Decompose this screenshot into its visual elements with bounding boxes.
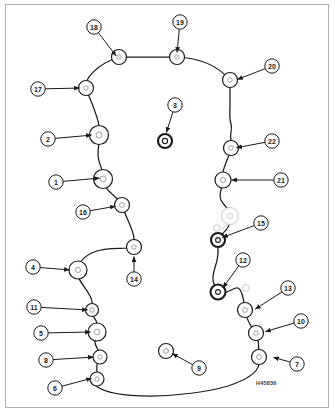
callout-4[interactable]: 4 <box>26 260 40 274</box>
callout-label-14: 14 <box>130 276 138 283</box>
callout-11[interactable]: 11 <box>27 300 41 314</box>
hole-4[interactable] <box>69 261 87 279</box>
callout-label-8: 8 <box>44 357 48 364</box>
leader-line-22 <box>236 142 264 147</box>
callout-6[interactable]: 6 <box>48 381 62 395</box>
callout-label-10: 10 <box>297 318 305 325</box>
leader-line-17 <box>45 88 79 89</box>
callout-label-19: 19 <box>176 19 184 26</box>
callout-label-2: 2 <box>46 136 50 143</box>
leader-line-16 <box>90 206 115 210</box>
callout-14[interactable]: 14 <box>127 272 141 286</box>
callout-label-12: 12 <box>239 257 247 264</box>
callout-label-16: 16 <box>79 209 87 216</box>
callout-17[interactable]: 17 <box>31 82 45 96</box>
callout-20[interactable]: 20 <box>265 59 279 73</box>
diagram-canvas: 12345678910111213141516171819202122 H458… <box>0 0 335 418</box>
callout-label-5: 5 <box>39 330 43 337</box>
callout-label-7: 7 <box>295 361 299 368</box>
diagram-sheet: 12345678910111213141516171819202122 H458… <box>0 0 335 418</box>
hole-18[interactable] <box>112 50 127 65</box>
callout-label-17: 17 <box>34 86 42 93</box>
callout-label-13: 13 <box>284 285 292 292</box>
callout-label-3: 3 <box>173 102 177 109</box>
callout-12[interactable]: 12 <box>236 253 250 267</box>
callout-9[interactable]: 9 <box>192 361 206 375</box>
hole-15[interactable] <box>211 233 225 247</box>
callout-10[interactable]: 10 <box>294 314 308 328</box>
hole-22[interactable] <box>224 141 239 156</box>
hole-16[interactable] <box>115 198 130 213</box>
callout-1[interactable]: 1 <box>49 175 63 189</box>
callout-label-22: 22 <box>268 138 276 145</box>
leader-line-6 <box>62 378 92 386</box>
callout-label-15: 15 <box>257 220 265 227</box>
callout-16[interactable]: 16 <box>76 205 90 219</box>
callout-2[interactable]: 2 <box>41 132 55 146</box>
hole-1[interactable] <box>94 170 113 189</box>
leader-line-7 <box>273 357 290 362</box>
callout-label-6: 6 <box>53 385 57 392</box>
hole-2[interactable] <box>90 126 109 145</box>
callout-label-21: 21 <box>277 177 285 184</box>
hole-3[interactable] <box>158 134 172 148</box>
leader-line-18 <box>98 33 116 56</box>
callout-22[interactable]: 22 <box>265 134 279 148</box>
callout-5[interactable]: 5 <box>34 326 48 340</box>
part-number-label: H45836 <box>256 380 276 386</box>
hole-21[interactable] <box>215 172 231 188</box>
leader-line-10 <box>265 323 294 332</box>
leader-line-13 <box>255 292 282 309</box>
callout-label-9: 9 <box>197 365 201 372</box>
callout-8[interactable]: 8 <box>39 353 53 367</box>
hole-13[interactable] <box>238 303 253 318</box>
callout-label-18: 18 <box>90 24 98 31</box>
callout-15[interactable]: 15 <box>254 216 268 230</box>
callout-7[interactable]: 7 <box>290 357 304 371</box>
hole-20[interactable] <box>223 73 238 88</box>
leader-line-11 <box>41 307 87 310</box>
callout-label-11: 11 <box>30 304 38 311</box>
callout-label-20: 20 <box>268 63 276 70</box>
leader-line-5 <box>48 332 90 333</box>
hole-6[interactable] <box>90 372 104 386</box>
hole-5[interactable] <box>88 323 106 341</box>
hole-ghost-a <box>222 208 239 225</box>
callout-18[interactable]: 18 <box>87 20 101 34</box>
hole-7[interactable] <box>252 350 267 365</box>
leader-line-2 <box>55 135 91 138</box>
callout-3[interactable]: 3 <box>168 98 182 112</box>
hole-14[interactable] <box>127 240 142 255</box>
callout-13[interactable]: 13 <box>281 281 295 295</box>
leader-line-8 <box>53 357 93 359</box>
leader-line-12 <box>223 266 239 288</box>
callout-label-4: 4 <box>31 264 35 271</box>
hole-ghost-b <box>214 225 220 231</box>
leader-line-4 <box>40 268 69 270</box>
callout-19[interactable]: 19 <box>173 15 187 29</box>
leader-line-20 <box>237 69 265 80</box>
hole-8[interactable] <box>93 350 107 364</box>
hole-17[interactable] <box>79 81 94 96</box>
callout-label-1: 1 <box>54 179 58 186</box>
hole-ghost-c <box>243 285 250 292</box>
hole-9[interactable] <box>159 344 174 359</box>
hole-10[interactable] <box>249 326 264 341</box>
callout-21[interactable]: 21 <box>274 173 288 187</box>
